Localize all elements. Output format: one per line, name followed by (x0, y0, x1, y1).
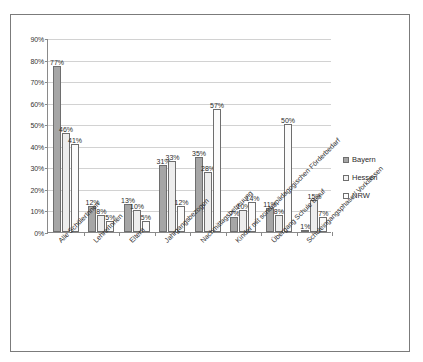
bar-value-label: 8% (274, 208, 284, 216)
legend-label: NRW (352, 191, 370, 200)
bar-value-label: 35% (192, 150, 206, 158)
bar-value-label: 50% (281, 117, 295, 125)
legend-item-hessen[interactable]: Hessen (343, 173, 405, 182)
plot-area: 90%80%70%60%50%40%30%20%10%0% 77%46%41%1… (47, 39, 331, 233)
bar-bayern[interactable]: 31% (159, 165, 167, 232)
bar-group: 31%33%12% (155, 39, 191, 232)
chart-plot-wrapper: 90%80%70%60%50%40%30%20%10%0% 77%46%41%1… (11, 15, 409, 351)
y-axis-tick-label: 70% (31, 79, 44, 86)
bar-value-label: 41% (68, 137, 82, 145)
chart-legend: BayernHessenNRW (343, 155, 405, 209)
bar-group: 12%8%5% (84, 39, 120, 232)
category-tick (84, 232, 85, 236)
category-tick (261, 232, 262, 236)
legend-label: Bayern (352, 155, 376, 164)
bar-value-label: 46% (59, 126, 73, 134)
y-axis-tick (45, 233, 48, 234)
bar-value-label: 10% (130, 203, 144, 211)
bar-value-label: 33% (166, 154, 180, 162)
bar-bayern[interactable]: 1% (301, 230, 309, 232)
y-axis-tick-label: 40% (31, 143, 44, 150)
bar-nrw[interactable]: 57% (213, 109, 221, 232)
legend-swatch-icon (343, 175, 349, 181)
legend-label: Hessen (352, 173, 377, 182)
category-tick (332, 232, 333, 236)
legend-item-bayern[interactable]: Bayern (343, 155, 405, 164)
bar-value-label: 77% (50, 59, 64, 67)
bar-hessen[interactable]: 46% (62, 133, 70, 232)
category-tick (155, 232, 156, 236)
y-axis-tick-label: 0% (34, 230, 44, 237)
bars-layer: 77%46%41%12%8%5%13%10%5%31%33%12%35%28%5… (48, 39, 331, 232)
y-axis-tick-label: 50% (31, 122, 44, 129)
category-tick (297, 232, 298, 236)
bar-bayern[interactable]: 7% (230, 217, 238, 232)
bar-group: 13%10%5% (119, 39, 155, 232)
category-tick (119, 232, 120, 236)
category-tick (226, 232, 227, 236)
category-tick (190, 232, 191, 236)
y-axis-tick-label: 20% (31, 186, 44, 193)
bar-bayern[interactable]: 77% (53, 66, 61, 232)
bar-nrw[interactable]: 50% (284, 124, 292, 232)
bar-hessen[interactable]: 33% (168, 161, 176, 232)
bar-value-label: 5% (141, 214, 151, 222)
chart-frame: 90%80%70%60%50%40%30%20%10%0% 77%46%41%1… (10, 14, 410, 352)
y-axis-tick-label: 60% (31, 100, 44, 107)
bar-value-label: 1% (300, 223, 310, 231)
y-axis-tick-label: 30% (31, 165, 44, 172)
legend-item-nrw[interactable]: NRW (343, 191, 405, 200)
bar-value-label: 57% (210, 102, 224, 110)
y-axis-tick-label: 10% (31, 208, 44, 215)
y-axis-tick-label: 90% (31, 36, 44, 43)
legend-swatch-icon (343, 193, 349, 199)
legend-swatch-icon (343, 157, 349, 163)
bar-group: 77%46%41% (48, 39, 84, 232)
y-axis-tick-label: 80% (31, 57, 44, 64)
bar-value-label: 12% (175, 199, 189, 207)
